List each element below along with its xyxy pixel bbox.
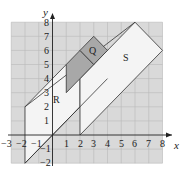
- svg-text:8: 8: [44, 17, 49, 28]
- svg-text:1: 1: [44, 115, 49, 126]
- x-axis-arrow-icon: [166, 133, 172, 138]
- svg-text:1: 1: [64, 138, 69, 149]
- diagram-container: x y −3 −2 −1 1 2 3 4 5 6 7 8 8 7 6 5 4 3…: [0, 0, 183, 172]
- shape-r-label: R: [53, 94, 60, 105]
- x-axis-label: x: [173, 139, 179, 151]
- svg-text:7: 7: [44, 31, 49, 42]
- coordinate-grid: x y −3 −2 −1 1 2 3 4 5 6 7 8 8 7 6 5 4 3…: [0, 0, 183, 172]
- svg-text:−3: −3: [1, 138, 12, 149]
- svg-text:−2: −2: [40, 157, 51, 168]
- svg-text:−1: −1: [40, 143, 51, 154]
- svg-text:2: 2: [44, 101, 49, 112]
- svg-text:3: 3: [44, 87, 49, 98]
- svg-text:5: 5: [44, 59, 49, 70]
- svg-text:3: 3: [91, 138, 96, 149]
- y-axis-arrow-icon: [50, 13, 55, 19]
- svg-text:8: 8: [160, 138, 165, 149]
- svg-text:5: 5: [119, 138, 124, 149]
- svg-text:4: 4: [105, 138, 110, 149]
- svg-text:4: 4: [44, 73, 49, 84]
- svg-text:7: 7: [146, 138, 151, 149]
- svg-text:2: 2: [78, 138, 83, 149]
- svg-text:−2: −2: [16, 138, 27, 149]
- svg-text:6: 6: [132, 138, 137, 149]
- shape-q-label: Q: [89, 45, 97, 56]
- svg-text:6: 6: [44, 45, 49, 56]
- shape-s-label: S: [123, 52, 129, 63]
